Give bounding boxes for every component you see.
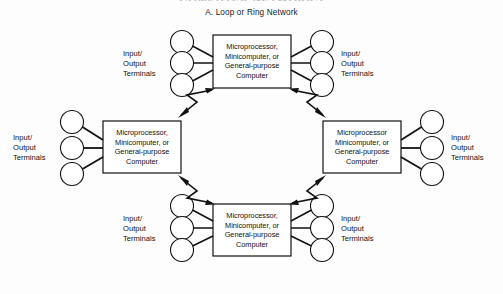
terminal-link [291,46,312,57]
terminal-circle[interactable] [311,31,334,54]
terminal-circle[interactable] [421,163,444,186]
terminal-label-left: Input/ Output Terminals [13,133,46,163]
terminal-circle[interactable] [171,74,194,97]
terminal-circle[interactable] [311,239,334,262]
terminal-link [193,70,214,81]
terminal-circle[interactable] [61,163,84,186]
terminal-label-top-right: Input/ Output Terminals [341,49,374,79]
terminal-link [291,70,312,81]
terminal-group-top-left [171,31,214,97]
terminal-link [193,46,214,57]
terminal-label-right: Input/ Output Terminals [451,133,484,163]
figure-subtitle: A. Loop or Ring Network [0,8,503,17]
network-diagram-figure: COMPUTER NETWORKS A. Loop or Ring Networ… [0,0,503,294]
arrowhead [315,175,326,186]
terminal-circle[interactable] [61,137,84,160]
node-label-top: Microprocessor, Minicomputer, or General… [213,42,291,80]
arrowhead [205,88,215,94]
arrowhead [178,107,189,118]
terminal-circle[interactable] [421,137,444,160]
terminal-label-top-left: Input/ Output Terminals [123,49,156,79]
terminal-group-right [401,111,444,186]
arrowhead [315,107,326,118]
terminal-circle[interactable] [61,111,84,134]
terminal-link [291,210,312,221]
terminal-link [83,127,104,140]
arrowhead [178,175,189,186]
terminal-circle[interactable] [311,217,334,240]
terminal-link [401,157,422,169]
terminal-label-bottom-left: Input/ Output Terminals [123,214,156,244]
terminal-circle[interactable] [171,31,194,54]
arrowhead [289,200,299,206]
terminal-link [291,236,312,246]
terminal-circle[interactable] [171,217,194,240]
terminal-circle[interactable] [171,239,194,262]
figure-title: COMPUTER NETWORKS [0,0,503,1]
terminal-link [193,210,214,221]
terminal-circle[interactable] [311,74,334,97]
terminal-circle[interactable] [171,52,194,75]
terminal-link [83,157,104,169]
arrowhead [205,200,215,206]
node-label-bottom: Microprocessor, Minicomputer, or General… [213,211,291,249]
terminal-group-top-right [291,31,334,97]
terminal-circle[interactable] [421,111,444,134]
node-label-left: Microprocessor, Minicomputer, or General… [103,128,181,166]
terminal-link [193,236,214,246]
node-label-right: Microprocessor Minicomputer, or General-… [323,128,401,166]
arrowhead [289,88,299,94]
terminal-label-bottom-right: Input/ Output Terminals [341,214,374,244]
terminal-circle[interactable] [311,52,334,75]
terminal-link [401,127,422,140]
terminal-group-left [61,111,104,186]
